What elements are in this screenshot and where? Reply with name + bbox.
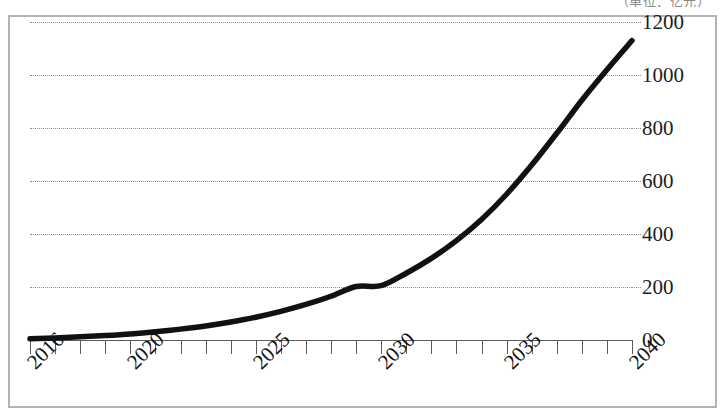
chart-page: （单位：亿元） 120010008006004002000 2016202020…: [0, 0, 726, 417]
x-tick: [105, 340, 106, 354]
gridline: [30, 181, 632, 182]
y-tick-dash: [632, 234, 641, 235]
plot-area: [30, 22, 632, 340]
y-tick-dash: [632, 128, 641, 129]
y-tick-dash: [632, 181, 641, 182]
x-tick: [356, 340, 357, 354]
y-tick-dash: [632, 75, 641, 76]
x-tick: [206, 340, 207, 354]
y-tick-dash: [632, 22, 641, 23]
y-axis-label: 800: [642, 116, 674, 141]
x-tick: [607, 340, 608, 354]
y-axis-label: 600: [642, 169, 674, 194]
y-axis-label: 200: [642, 275, 674, 300]
x-tick: [431, 340, 432, 354]
y-tick-dash: [632, 287, 641, 288]
gridline: [30, 287, 632, 288]
x-tick: [181, 340, 182, 354]
x-tick: [482, 340, 483, 354]
x-tick: [557, 340, 558, 354]
y-axis-label: 1200: [642, 10, 684, 35]
y-axis-label: 400: [642, 222, 674, 247]
gridline: [30, 75, 632, 76]
x-tick: [306, 340, 307, 354]
gridline: [30, 128, 632, 129]
chart-unit-caption: （单位：亿元）: [0, 0, 726, 7]
x-tick: [456, 340, 457, 354]
x-tick: [582, 340, 583, 354]
x-tick: [231, 340, 232, 354]
x-tick: [80, 340, 81, 354]
gridline: [30, 234, 632, 235]
x-tick: [331, 340, 332, 354]
y-axis-label: 1000: [642, 63, 684, 88]
gridline: [30, 22, 632, 23]
